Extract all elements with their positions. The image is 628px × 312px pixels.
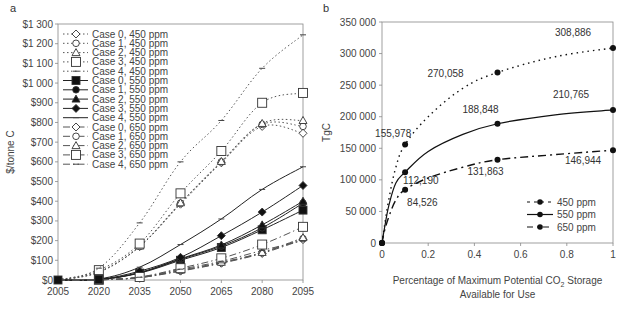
legend-entry: 650 ppm [557, 222, 596, 233]
data-point-marker [258, 240, 267, 249]
y-tick-label: 150 000 [340, 143, 377, 154]
data-label: 188,848 [463, 104, 500, 115]
x-tick-label: 2035 [129, 286, 152, 297]
data-point-marker [299, 129, 307, 137]
x-tick-label: 0 [379, 249, 385, 260]
data-label: 84,526 [407, 197, 438, 208]
x-tick-label: 2080 [251, 286, 274, 297]
data-point-marker [299, 206, 307, 214]
data-point-marker [299, 222, 308, 231]
legend-marker [537, 199, 543, 205]
y-tick-label: 50 000 [345, 206, 376, 217]
x-tick-label: 0.8 [560, 249, 574, 260]
series-line [58, 222, 308, 284]
x-tick-label: 2065 [210, 286, 233, 297]
legend-entry: 550 ppm [557, 209, 596, 220]
data-point-marker [299, 116, 307, 123]
x-tick-label: 0.2 [421, 249, 435, 260]
data-label: 131,863 [468, 166, 505, 177]
data-point-marker [299, 181, 307, 189]
data-point-marker [610, 147, 616, 153]
data-point-marker [176, 189, 185, 198]
legend-a: Case 0, 450 ppmCase 1, 450 ppmCase 2, 45… [63, 29, 168, 170]
data-point-marker [217, 232, 225, 240]
y-tick-label: 0 [370, 238, 376, 249]
panel-label-b: b [323, 2, 329, 14]
legend-marker [72, 77, 80, 85]
y-tick-label: 100 000 [340, 174, 377, 185]
y-tick-label: $500 [31, 176, 54, 187]
legend-marker [73, 133, 80, 140]
y-tick-label: $200 [31, 235, 54, 246]
data-point-marker [610, 45, 616, 51]
data-point-marker [495, 121, 501, 127]
data-point-marker [402, 142, 408, 148]
figure: a$0$100$200$300$400$500$600$700$800$900$… [0, 0, 628, 312]
legend-entry: 450 ppm [557, 197, 596, 208]
legend-marker [72, 57, 81, 66]
y-tick-label: $1 000 [22, 78, 53, 89]
y-tick-label: $700 [31, 137, 54, 148]
data-label: 146,944 [565, 155, 602, 166]
x-axis-title: Percentage of Maximum Potential CO2 Stor… [393, 275, 603, 288]
y-tick-label: $300 [31, 215, 54, 226]
data-label: 210,765 [553, 89, 590, 100]
chart-panel-a: a$0$100$200$300$400$500$600$700$800$900$… [5, 2, 315, 297]
y-tick-label: $0 [42, 275, 54, 286]
legend-marker [72, 123, 80, 131]
data-point-marker [217, 147, 226, 156]
y-tick-label: 300 000 [340, 48, 377, 59]
y-tick-label: 200 000 [340, 111, 377, 122]
data-point-marker [299, 88, 308, 97]
legend-marker [72, 30, 80, 38]
x-tick-label: 2050 [169, 286, 192, 297]
y-axis-title: $/tonne C [5, 130, 16, 173]
y-axis-title: TgC [321, 123, 332, 142]
legend-marker [72, 150, 81, 159]
y-tick-label: 350 000 [340, 17, 377, 28]
x-tick-label: 1 [610, 249, 616, 260]
legend-marker [537, 212, 543, 218]
data-point-marker [258, 98, 267, 107]
legend-entry: Case 4, 650 ppm [92, 159, 168, 170]
x-axis-title-line2: Available for Use [460, 289, 536, 300]
y-tick-label: $400 [31, 196, 54, 207]
data-point-marker [258, 221, 266, 228]
data-point-marker [94, 266, 103, 275]
legend-marker [73, 87, 80, 94]
data-point-marker [402, 187, 408, 193]
data-point-marker [300, 123, 307, 130]
legend-marker [73, 40, 80, 47]
y-tick-label: $100 [31, 255, 54, 266]
y-tick-label: $900 [31, 97, 54, 108]
legend-marker [72, 49, 80, 56]
data-point-marker [95, 276, 103, 284]
legend-marker [537, 224, 543, 230]
origin-marker [54, 276, 62, 284]
panel-label-a: a [10, 2, 17, 14]
data-point-marker [258, 208, 266, 216]
legend-marker [72, 104, 80, 112]
data-label: 270,058 [428, 68, 465, 79]
data-point-marker [495, 69, 501, 75]
data-point-marker [610, 107, 616, 113]
y-tick-label: $600 [31, 156, 54, 167]
y-tick-label: $800 [31, 117, 54, 128]
x-tick-label: 0.4 [467, 249, 481, 260]
data-label: 308,886 [555, 27, 592, 38]
x-tick-label: 2095 [292, 286, 315, 297]
data-point-marker [495, 157, 501, 163]
data-point-marker [135, 239, 144, 248]
y-tick-label: $1 100 [22, 58, 53, 69]
y-tick-label: $1 300 [22, 19, 53, 30]
chart-panel-b: b050 000100 000150 000200 000250 000300 … [321, 2, 616, 300]
y-tick-label: $1 200 [22, 38, 53, 49]
x-tick-label: 2020 [88, 286, 111, 297]
x-tick-label: 2005 [47, 286, 70, 297]
data-label: 155,978 [375, 128, 412, 139]
legend-b: 450 ppm550 ppm650 ppm [527, 197, 596, 233]
data-point-marker [379, 240, 385, 246]
y-tick-label: 250 000 [340, 80, 377, 91]
x-tick-label: 0.6 [514, 249, 528, 260]
